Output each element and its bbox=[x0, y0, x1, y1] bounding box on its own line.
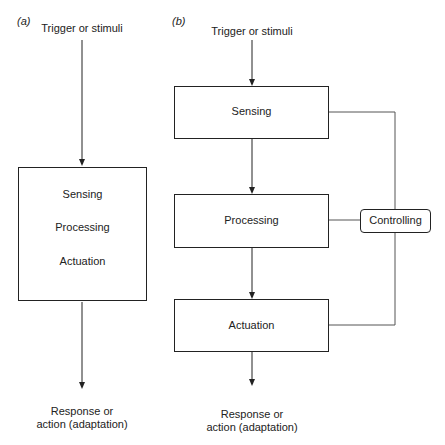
panel-a-actuation: Actuation bbox=[19, 255, 146, 267]
panel-b-actuation-box: Actuation bbox=[174, 299, 329, 352]
panel-a-output-line2: action (adaptation) bbox=[22, 418, 142, 431]
panel-b-output-line1: Response or bbox=[192, 408, 312, 421]
panel-b-label: (b) bbox=[172, 15, 185, 27]
processing-label: Processing bbox=[175, 214, 328, 226]
panel-b-output-line2: action (adaptation) bbox=[192, 421, 312, 434]
panel-a-system-box: Sensing Processing Actuation bbox=[18, 167, 147, 301]
panel-a-input-label: Trigger or stimuli bbox=[32, 22, 132, 35]
sensing-label: Sensing bbox=[175, 105, 328, 117]
panel-b-processing-box: Processing bbox=[174, 194, 329, 248]
panel-a-sensing: Sensing bbox=[19, 188, 146, 200]
controlling-box: Controlling bbox=[360, 209, 431, 233]
panel-b-input-label: Trigger or stimuli bbox=[202, 25, 302, 38]
panel-a-output-line1: Response or bbox=[22, 405, 142, 418]
actuation-label: Actuation bbox=[175, 319, 328, 331]
panel-a-label: (a) bbox=[17, 15, 30, 27]
panel-b-sensing-box: Sensing bbox=[174, 86, 329, 139]
panel-a-processing: Processing bbox=[19, 221, 146, 233]
